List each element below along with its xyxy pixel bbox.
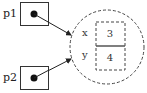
p1-box [20, 2, 49, 26]
field-x-value: 3 [96, 29, 124, 39]
p1-label: p1 [3, 8, 17, 19]
object-boundary [70, 10, 144, 84]
field-y-label: y [82, 50, 88, 60]
field-x-label: x [82, 28, 88, 38]
p2-label: p2 [3, 72, 17, 83]
field-y-value: 4 [96, 53, 124, 63]
p2-box [20, 66, 49, 90]
